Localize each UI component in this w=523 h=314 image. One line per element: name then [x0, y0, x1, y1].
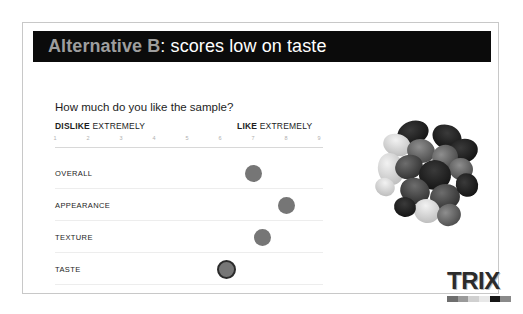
slide-card: Alternative B: scores low on taste How m…: [22, 22, 499, 294]
rating-row: TEXTURE: [55, 221, 323, 253]
scale-tick-6: 6: [218, 135, 221, 141]
scale-tick-2: 2: [86, 135, 89, 141]
scale-tick-4: 4: [152, 135, 155, 141]
scale-anchor-high-rest: EXTREMELY: [260, 121, 313, 131]
scale-anchor-high: LIKE EXTREMELY: [237, 121, 312, 131]
scale-tick-1: 1: [53, 135, 56, 141]
scale-tick-labels: 123456789: [55, 135, 319, 146]
page-title-strong: Alternative B: [48, 36, 160, 56]
rating-rows: OVERALLAPPEARANCETEXTURETASTE: [55, 157, 323, 285]
scale-tick-3: 3: [119, 135, 122, 141]
snack-mix-photo: [375, 111, 493, 239]
page-title: Alternative B: scores low on taste: [48, 36, 327, 57]
brand-swatch: [490, 296, 501, 302]
brand-swatch: [447, 296, 458, 302]
scale-anchor-low-rest: EXTREMELY: [93, 121, 146, 131]
rating-dot: [217, 260, 236, 279]
rating-dot: [254, 229, 271, 246]
rating-row: TASTE: [55, 253, 323, 285]
rating-row-rule: [55, 284, 323, 285]
scale-tick-5: 5: [185, 135, 188, 141]
brand-swatch: [500, 296, 511, 302]
scale-tick-8: 8: [284, 135, 287, 141]
brand-color-swatches: [447, 296, 511, 302]
rating-dot: [245, 165, 262, 182]
brand-swatch: [479, 296, 490, 302]
brand-swatch: [468, 296, 479, 302]
scale-tick-9: 9: [317, 135, 320, 141]
rating-row-label: APPEARANCE: [55, 201, 110, 210]
brand-swatch: [458, 296, 469, 302]
rating-row-label: TEXTURE: [55, 233, 93, 242]
page-title-rest: : scores low on taste: [160, 36, 326, 56]
rating-row-label: OVERALL: [55, 169, 92, 178]
rating-row-label: TASTE: [55, 265, 81, 274]
rating-dot: [278, 197, 295, 214]
brand-logo: TRIX: [447, 269, 513, 302]
scale-anchor-low: DISLIKE EXTREMELY: [55, 121, 145, 131]
slide-header-bar: Alternative B: scores low on taste: [33, 31, 491, 62]
scale-anchor-low-strong: DISLIKE: [55, 121, 90, 131]
brand-name: TRIX: [447, 269, 513, 293]
survey-question: How much do you like the sample?: [55, 101, 233, 113]
scale-axis-line: [55, 147, 323, 148]
scale-anchor-high-strong: LIKE: [237, 121, 257, 131]
scale-tick-7: 7: [251, 135, 254, 141]
rating-row: OVERALL: [55, 157, 323, 189]
rating-row: APPEARANCE: [55, 189, 323, 221]
